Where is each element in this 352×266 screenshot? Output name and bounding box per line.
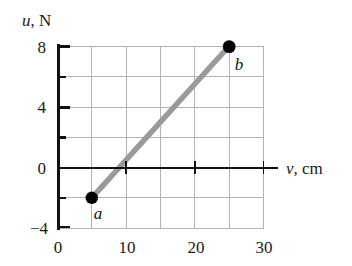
data-point-b-marker [223,40,236,53]
x-tick-label-20: 20 [188,238,205,257]
y-axis-title-unit: , N [31,11,52,30]
chart-figure: a b 8 4 0 −4 0 10 20 30 u, N v, cm [0,0,352,266]
data-point-a-label: a [94,204,103,223]
data-point-a-marker [86,192,98,204]
y-tick-label-8: 8 [38,38,47,57]
y-axis-title-symbol: u [22,11,31,30]
figure-background [0,0,352,266]
x-tick-label-30: 30 [256,238,273,257]
x-tick-label-10: 10 [119,238,136,257]
x-axis-title-unit: , cm [294,159,323,178]
y-tick-label-4: 4 [38,98,47,117]
y-axis-title: u, N [22,11,51,30]
data-point-b-label: b [235,55,244,74]
y-tick-label-0: 0 [38,159,47,178]
x-axis-title: v, cm [286,159,323,178]
y-tick-label-neg4: −4 [30,219,49,238]
x-tick-label-0: 0 [54,238,63,257]
graph-canvas: a b 8 4 0 −4 0 10 20 30 u, N v, cm [0,0,352,266]
